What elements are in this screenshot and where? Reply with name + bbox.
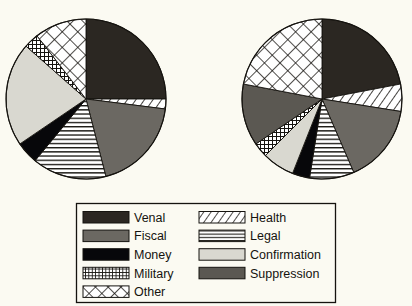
legend-label-other: Other: [134, 285, 165, 299]
legend-label-health: Health: [250, 211, 286, 225]
legend-label-venal: Venal: [134, 211, 165, 225]
legend-label-legal: Legal: [250, 229, 281, 243]
legend-swatch-venal: [83, 212, 129, 224]
legend-swatch-confirmation: [199, 249, 245, 261]
legend-label-suppression: Suppression: [250, 267, 320, 281]
legend-swatch-legal: [199, 230, 245, 242]
legend-label-military: Military: [134, 267, 174, 281]
legend-swatch-military: [83, 267, 129, 279]
legend-label-money: Money: [134, 248, 172, 262]
legend-swatch-money: [83, 249, 129, 261]
legend: VenalFiscalMoneyMilitaryOtherHealthLegal…: [77, 204, 336, 303]
figure-canvas: VenalFiscalMoneyMilitaryOtherHealthLegal…: [0, 0, 412, 306]
legend-label-fiscal: Fiscal: [134, 229, 167, 243]
legend-swatch-suppression: [199, 267, 245, 279]
legend-swatch-other: [83, 286, 129, 298]
pie-chart-right: [242, 19, 402, 179]
pie-chart-left: [6, 19, 166, 179]
legend-swatch-fiscal: [83, 230, 129, 242]
pie-chart-figure: VenalFiscalMoneyMilitaryOtherHealthLegal…: [0, 0, 412, 306]
legend-swatch-health: [199, 212, 245, 224]
legend-label-confirmation: Confirmation: [250, 248, 321, 262]
